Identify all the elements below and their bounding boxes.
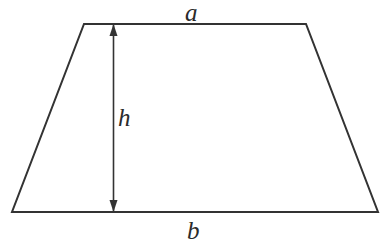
height-arrowhead-down (110, 200, 118, 212)
label-top-side-a: a (185, 0, 198, 25)
diagram-canvas: a h b (0, 0, 386, 244)
trapezoid-figure (0, 0, 386, 244)
label-bottom-side-b: b (187, 218, 200, 243)
label-height-h: h (118, 105, 131, 130)
height-dimension-arrow (110, 24, 118, 212)
trapezoid-outline (12, 24, 378, 212)
height-arrowhead-up (110, 24, 118, 36)
